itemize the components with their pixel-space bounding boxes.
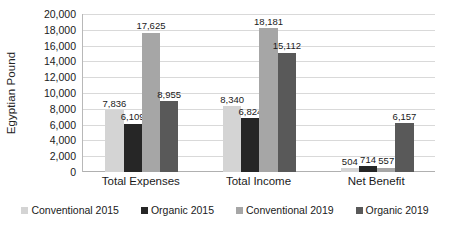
bar-slot: 6,109 xyxy=(124,14,142,172)
bar-slot: 714 xyxy=(359,14,377,172)
bar-slot: 8,955 xyxy=(160,14,178,172)
bar xyxy=(359,166,377,172)
bar-slot: 557 xyxy=(377,14,395,172)
bar xyxy=(241,118,259,172)
y-axis-tick: 18,000 xyxy=(20,24,76,36)
bar-value-label: 504 xyxy=(342,157,358,167)
bar-value-label: 557 xyxy=(378,156,394,166)
bar xyxy=(160,101,178,172)
y-axis-tick: 20,000 xyxy=(20,8,76,20)
legend-swatch-icon xyxy=(21,207,28,214)
bar-slot: 15,112 xyxy=(278,14,296,172)
x-axis-category-label: Total Expenses xyxy=(102,175,180,187)
y-axis-tick: 6,000 xyxy=(20,119,76,131)
legend-label: Organic 2019 xyxy=(366,204,429,216)
chart-legend: Conventional 2015Organic 2015Conventiona… xyxy=(0,200,450,220)
legend-item[interactable]: Organic 2015 xyxy=(141,204,214,216)
legend-item[interactable]: Conventional 2015 xyxy=(21,204,119,216)
bar-slot: 7,836 xyxy=(105,14,123,172)
bar-value-label: 714 xyxy=(360,155,376,165)
x-axis-labels: Total ExpensesTotal IncomeNet Benefit xyxy=(82,175,435,193)
bar-slot: 8,340 xyxy=(223,14,241,172)
legend-swatch-icon xyxy=(236,207,243,214)
bar-slot: 504 xyxy=(341,14,359,172)
bar xyxy=(124,124,142,172)
legend-item[interactable]: Organic 2019 xyxy=(356,204,429,216)
y-axis-tick: 10,000 xyxy=(20,87,76,99)
y-axis-tick-labels: 20,00018,00016,00014,00012,00010,0008,00… xyxy=(22,14,80,172)
bar-value-label: 15,112 xyxy=(273,41,301,51)
bar xyxy=(341,168,359,172)
bar-slot: 6,157 xyxy=(395,14,413,172)
bar-slot: 6,824 xyxy=(241,14,259,172)
bar-group: 7,8366,10917,6258,955 xyxy=(83,14,201,172)
bar-value-label: 8,955 xyxy=(157,90,181,100)
y-axis-tick: 14,000 xyxy=(20,55,76,67)
bar-group: 5047145576,157 xyxy=(318,14,436,172)
y-axis-tick: 12,000 xyxy=(20,71,76,83)
y-axis-tick: 0 xyxy=(20,166,76,178)
bar xyxy=(377,168,395,172)
legend-swatch-icon xyxy=(141,207,148,214)
y-axis-title-label: Egyptian Pound xyxy=(5,52,17,135)
y-axis-tick: 8,000 xyxy=(20,103,76,115)
bar xyxy=(278,53,296,172)
legend-label: Conventional 2019 xyxy=(246,204,334,216)
bar-chart: Egyptian Pound 20,00018,00016,00014,0001… xyxy=(0,0,450,229)
x-axis-category-label: Total Income xyxy=(226,175,291,187)
y-axis-tick: 16,000 xyxy=(20,40,76,52)
legend-item[interactable]: Conventional 2019 xyxy=(236,204,334,216)
y-axis-tick: 2,000 xyxy=(20,150,76,162)
x-axis-category-label: Net Benefit xyxy=(348,175,405,187)
plot-area: 7,8366,10917,6258,9558,3406,82418,18115,… xyxy=(82,14,435,172)
bar-value-label: 6,157 xyxy=(393,112,417,122)
legend-label: Conventional 2015 xyxy=(31,204,119,216)
y-axis-title: Egyptian Pound xyxy=(0,0,22,186)
bar xyxy=(142,33,160,172)
y-axis-tick: 4,000 xyxy=(20,134,76,146)
bar xyxy=(395,123,413,172)
legend-swatch-icon xyxy=(356,207,363,214)
legend-label: Organic 2015 xyxy=(151,204,214,216)
bar-slot: 18,181 xyxy=(259,14,277,172)
bar-group: 8,3406,82418,18115,112 xyxy=(201,14,319,172)
